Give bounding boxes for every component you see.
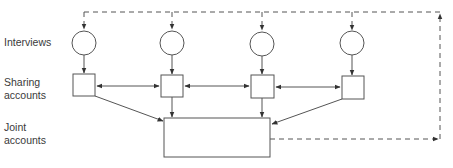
interview-node-2: [160, 31, 184, 55]
interview-node-4: [340, 31, 364, 55]
sharing-node-2: [161, 75, 183, 97]
diagram-canvas: [0, 0, 453, 168]
joint-account-node: [164, 118, 270, 157]
interview-node-3: [250, 32, 274, 56]
interview-node-1: [72, 31, 96, 55]
sharing-node-3: [251, 75, 274, 98]
sharing-node-4: [342, 76, 364, 99]
sharing-node-1: [73, 74, 95, 96]
